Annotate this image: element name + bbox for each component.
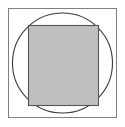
inner-filled-square (29, 26, 99, 106)
figure-canvas (0, 0, 125, 127)
geometry-diagram (0, 0, 125, 127)
